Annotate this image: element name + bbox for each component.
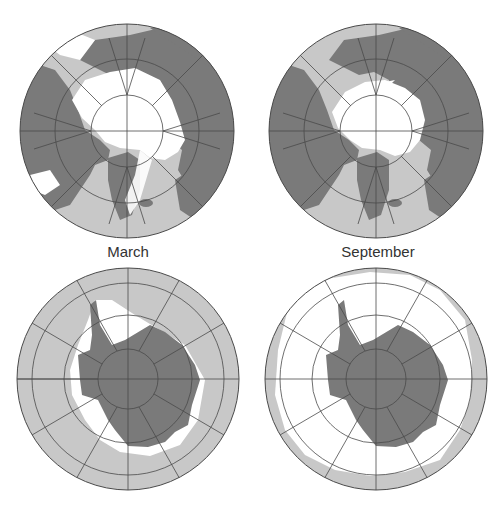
september-label: September bbox=[318, 243, 438, 260]
antarctic-september-map bbox=[265, 268, 487, 490]
antarctic-march-map bbox=[17, 268, 239, 490]
arctic-september-map bbox=[264, 20, 494, 238]
arctic-march-map bbox=[15, 20, 245, 238]
march-label: March bbox=[68, 243, 188, 260]
